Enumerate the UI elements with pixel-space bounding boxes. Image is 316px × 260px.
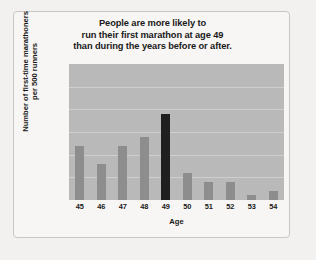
bar-age-51[interactable]: [204, 182, 213, 200]
bar-age-45[interactable]: [75, 146, 84, 200]
chart-title-line-2: run their first marathon at age 49: [14, 30, 291, 42]
y-axis-label-line-1: Number of first-time marathoners: [21, 3, 30, 139]
chart-title: People are more likely to run their firs…: [14, 18, 291, 53]
bar-age-47[interactable]: [118, 146, 127, 200]
bar-series: [69, 64, 284, 200]
x-axis-tick-label-54: 54: [263, 202, 285, 211]
y-axis-label: Number of first-time marathoners per 500…: [21, 3, 40, 139]
x-axis-label: Age: [69, 217, 284, 226]
chart-figure-frame: People are more likely to run their firs…: [13, 11, 290, 238]
bar-age-54[interactable]: [269, 191, 278, 200]
chart-title-line-3: than during the years before or after.: [14, 41, 291, 53]
bar-slot: [91, 64, 113, 200]
bar-slot: [241, 64, 263, 200]
x-axis-ticks: 45464748495051525354: [69, 202, 284, 211]
bar-slot: [220, 64, 242, 200]
bar-age-46[interactable]: [97, 164, 106, 200]
bar-age-49[interactable]: [161, 114, 170, 200]
plot-area: 051015202530: [69, 64, 284, 200]
bar-slot: [112, 64, 134, 200]
bar-slot: [134, 64, 156, 200]
x-axis-tick-label-50: 50: [177, 202, 199, 211]
x-axis-tick-label-47: 47: [112, 202, 134, 211]
bar-slot: [263, 64, 285, 200]
y-axis-label-line-2: per 500 runners: [30, 3, 39, 139]
x-axis-tick-label-53: 53: [241, 202, 263, 211]
bar-age-50[interactable]: [183, 173, 192, 200]
x-axis-tick-label-45: 45: [69, 202, 91, 211]
x-axis-tick-label-49: 49: [155, 202, 177, 211]
bar-slot: [155, 64, 177, 200]
bar-age-52[interactable]: [226, 182, 235, 200]
bar-slot: [69, 64, 91, 200]
bar-age-53[interactable]: [247, 195, 256, 200]
bar-age-48[interactable]: [140, 137, 149, 200]
x-axis-tick-label-46: 46: [91, 202, 113, 211]
bar-slot: [198, 64, 220, 200]
bar-slot: [177, 64, 199, 200]
x-axis-tick-label-51: 51: [198, 202, 220, 211]
x-axis-tick-label-48: 48: [134, 202, 156, 211]
chart-title-line-1: People are more likely to: [14, 18, 291, 30]
x-axis-tick-label-52: 52: [220, 202, 242, 211]
